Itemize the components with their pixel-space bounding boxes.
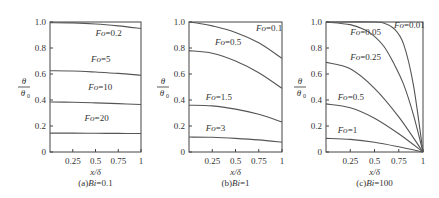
x-tick-label: 0.5 [90,156,102,166]
curve-label: Fo=3 [205,123,226,133]
y-tick-label: 0.4 [174,95,186,105]
curve-fo-1-5 [189,105,282,122]
x-tick-label: 0.75 [251,156,267,166]
subplot-caption: (b)Bi=1 [221,178,249,188]
x-tick-label: 0.5 [230,156,242,166]
subplot-caption: (a)Bi=0.1 [78,178,112,188]
x-tick-label: 0.5 [369,156,381,166]
y-tick-label: 1.0 [174,17,186,27]
curve-label: Fo=1 [337,125,358,135]
x-tick-label: 0.25 [204,156,220,166]
y-axis-label: θθ0 [294,76,306,99]
x-axis-label: x/δ [89,167,101,177]
curve-label: Fo=5 [90,54,111,64]
curve-label: Fo=0.5 [214,37,242,47]
x-axis-label: x/δ [368,167,380,177]
y-axis-label: θθ0 [157,76,169,99]
x-tick-label: 1 [280,156,285,166]
y-tick-label: 0.2 [174,121,185,131]
svg-text:θ: θ [21,88,26,98]
y-axis-label: θθ0 [18,76,30,99]
x-tick-label: 0.75 [110,156,126,166]
svg-text:θ: θ [297,88,302,98]
y-tick-label: 0.6 [35,69,47,79]
svg-text:θ: θ [298,76,303,86]
x-tick-label: 1 [421,156,426,166]
y-tick-label: 0.6 [174,69,186,79]
y-tick-label: 0.4 [311,95,323,105]
y-tick-label: 0 [42,147,47,157]
subplot-b: 00.20.40.60.81.00.250.50.751x/δ(b)Bi=1θθ… [157,17,284,188]
curve-label: Fo=0.01 [393,20,425,30]
svg-text:θ: θ [160,88,165,98]
y-tick-label: 0.8 [311,43,323,53]
svg-text:0: 0 [303,93,306,99]
curve-label: Fo=20 [84,113,110,123]
x-tick-label: 0.25 [342,156,358,166]
y-tick-label: 0.8 [35,43,47,53]
curve-label: Fo=0.1 [255,23,282,33]
curve-label: Fo=10 [87,82,113,92]
curve-label: Fo=1.5 [205,92,233,102]
curve-fo-5 [50,71,141,76]
x-tick-label: 1 [139,156,144,166]
svg-text:0: 0 [166,93,169,99]
subplot-caption: (c)Bi=100 [356,178,393,188]
y-tick-label: 0.8 [174,43,186,53]
y-tick-label: 1.0 [311,17,323,27]
y-tick-label: 0.2 [35,121,46,131]
figure-temperature-distribution: 00.20.40.60.81.00.250.50.751x/δ(a)Bi=0.1… [0,0,439,198]
x-tick-label: 0.25 [65,156,81,166]
svg-text:θ: θ [161,76,166,86]
y-tick-label: 0.4 [35,95,47,105]
curve-label: Fo=0.05 [349,27,381,37]
x-tick-label: 0.75 [391,156,407,166]
x-axis-label: x/δ [229,167,241,177]
curve-label: Fo=0.2 [95,28,122,38]
svg-text:θ: θ [22,76,27,86]
y-tick-label: 1.0 [35,17,47,27]
subplot-c: 00.20.40.60.81.00.250.50.751x/δ(c)Bi=100… [294,17,425,188]
curve-fo-0-5 [189,51,282,89]
curve-label: Fo=0.5 [337,92,365,102]
svg-text:0: 0 [27,93,30,99]
y-tick-label: 0 [318,147,323,157]
curve-label: Fo=0.25 [349,52,381,62]
y-tick-label: 0.2 [311,121,322,131]
subplot-a: 00.20.40.60.81.00.250.50.751x/δ(a)Bi=0.1… [18,17,143,188]
curve-fo-10 [50,102,141,105]
curve-fo-3 [189,137,282,142]
y-tick-label: 0 [181,147,186,157]
y-tick-label: 0.6 [311,69,323,79]
